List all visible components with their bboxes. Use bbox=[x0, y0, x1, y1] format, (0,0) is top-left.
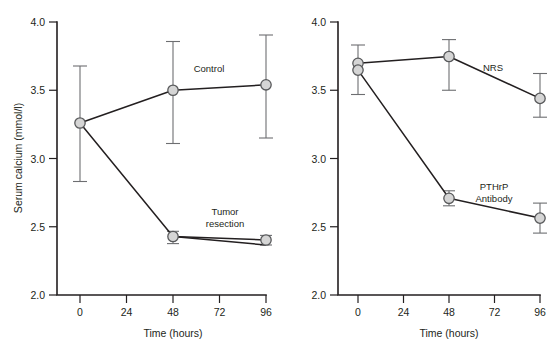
y-axis-ticks-left bbox=[49, 22, 57, 295]
x-tick-label-96-right: 96 bbox=[534, 306, 546, 318]
x-axis-ticks-left bbox=[80, 295, 266, 303]
data-point-nrs-96 bbox=[535, 93, 545, 103]
data-point-nrs-48 bbox=[444, 51, 454, 61]
y-tick-label-2.5-left: 2.5 bbox=[30, 221, 45, 233]
x-tick-label-0-left: 0 bbox=[77, 306, 83, 318]
x-tick-label-48-right: 48 bbox=[443, 306, 455, 318]
series-label-tumor-line1: Tumor bbox=[211, 206, 238, 217]
axis-lines-left bbox=[57, 22, 266, 295]
series-label-tumor-line2: resection bbox=[206, 218, 245, 229]
y-tick-label-3.5-right: 3.5 bbox=[311, 84, 326, 96]
data-point-control-96 bbox=[261, 80, 271, 90]
x-tick-label-0-right: 0 bbox=[355, 306, 361, 318]
plot-left: 4.0 3.5 3.0 2.5 2.0 0 24 48 72 96 Time (… bbox=[0, 0, 290, 356]
data-point-baseline bbox=[75, 118, 85, 128]
data-point-pthrp-48 bbox=[444, 193, 454, 203]
y-tick-label-4.0-left: 4.0 bbox=[30, 16, 45, 28]
data-point-control-48 bbox=[168, 85, 178, 95]
x-axis-title-left: Time (hours) bbox=[143, 327, 202, 339]
y-tick-label-2.5-right: 2.5 bbox=[311, 221, 326, 233]
x-tick-label-24-left: 24 bbox=[121, 306, 133, 318]
data-point-tumor-96 bbox=[261, 235, 271, 245]
y-axis-ticks-right bbox=[330, 22, 338, 295]
series-label-control: Control bbox=[194, 63, 225, 74]
x-tick-label-72-right: 72 bbox=[489, 306, 501, 318]
y-tick-label-3.5-left: 3.5 bbox=[30, 84, 45, 96]
chart-panel-right: 4.0 3.5 3.0 2.5 2.0 0 24 48 72 96 Time (… bbox=[290, 0, 557, 356]
figure-container: 4.0 3.5 3.0 2.5 2.0 0 24 48 72 96 Time (… bbox=[0, 0, 557, 356]
error-bars-nrs bbox=[442, 40, 547, 118]
x-tick-label-24-right: 24 bbox=[398, 306, 410, 318]
plot-right: 4.0 3.5 3.0 2.5 2.0 0 24 48 72 96 Time (… bbox=[290, 0, 557, 356]
y-axis-title-left: Serum calcium (mmol/l) bbox=[12, 103, 24, 213]
series-label-pthrp-line2: Antibody bbox=[476, 193, 513, 204]
data-point-tumor-48 bbox=[168, 231, 178, 241]
series-label-nrs: NRS bbox=[483, 62, 503, 73]
x-axis-title-right: Time (hours) bbox=[419, 327, 478, 339]
x-tick-label-48-left: 48 bbox=[167, 306, 179, 318]
series-label-pthrp-line1: PTHrP bbox=[480, 181, 509, 192]
x-tick-label-96-left: 96 bbox=[260, 306, 272, 318]
y-tick-label-4.0-right: 4.0 bbox=[311, 16, 326, 28]
data-point-pthrp-96 bbox=[535, 213, 545, 223]
data-point-pthrp-0 bbox=[353, 65, 363, 75]
error-bars-control bbox=[73, 35, 273, 182]
x-tick-label-72-left: 72 bbox=[214, 306, 226, 318]
y-tick-label-3.0-right: 3.0 bbox=[311, 153, 326, 165]
x-axis-ticks-right bbox=[358, 295, 540, 303]
y-tick-label-3.0-left: 3.0 bbox=[30, 153, 45, 165]
y-tick-label-2.0-right: 2.0 bbox=[311, 289, 326, 301]
y-tick-label-2.0-left: 2.0 bbox=[30, 289, 45, 301]
chart-panel-left: 4.0 3.5 3.0 2.5 2.0 0 24 48 72 96 Time (… bbox=[0, 0, 290, 356]
